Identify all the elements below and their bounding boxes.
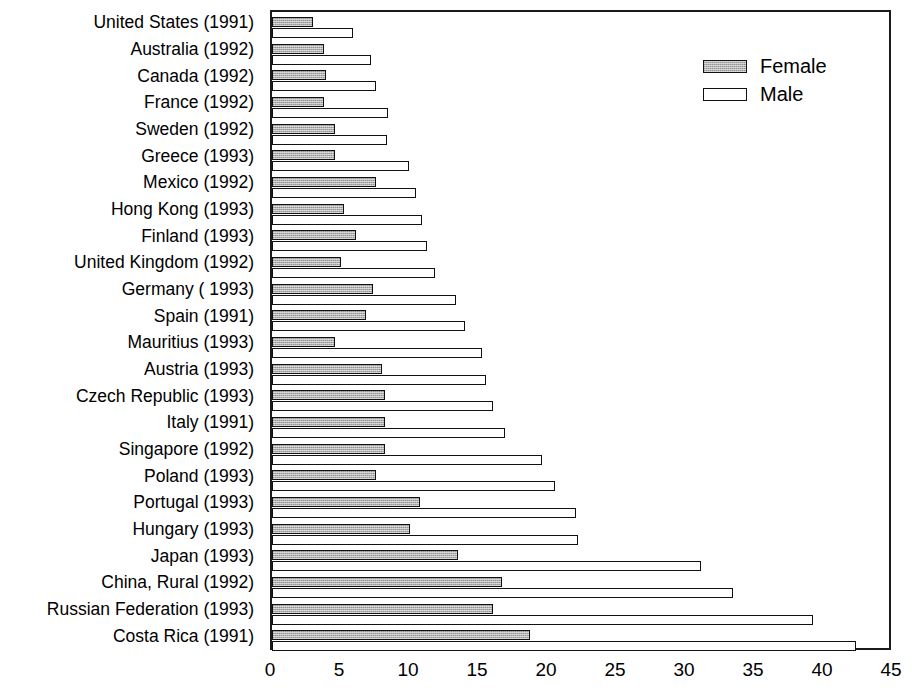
bar-group [272, 492, 889, 519]
bar-male [272, 241, 427, 251]
bar-female [272, 284, 373, 294]
bar-group [272, 545, 889, 572]
x-axis-tick-label: 15 [466, 660, 487, 679]
x-axis-tick-label: 35 [742, 660, 763, 679]
bar-female [272, 17, 313, 27]
category-label: Mexico (1992) [0, 174, 254, 192]
bar-female [272, 177, 376, 187]
bar-female [272, 70, 326, 80]
category-label: Finland (1993) [0, 228, 254, 246]
bar-female [272, 524, 410, 534]
bar-male [272, 268, 435, 278]
x-axis-tick-label: 25 [604, 660, 625, 679]
x-axis-tick-label: 5 [334, 660, 345, 679]
bar-male [272, 215, 422, 225]
bar-female [272, 417, 385, 427]
x-axis: 051015202530354045 [270, 652, 891, 692]
category-label: Czech Republic (1993) [0, 388, 254, 406]
bar-group [272, 385, 889, 412]
chart-legend: FemaleMale [703, 54, 878, 110]
bar-female [272, 470, 376, 480]
bar-group [272, 172, 889, 199]
category-label: France (1992) [0, 94, 254, 112]
bar-male [272, 348, 482, 358]
bar-group [272, 519, 889, 546]
bar-group [272, 119, 889, 146]
bar-male [272, 55, 371, 65]
bar-group [272, 279, 889, 306]
category-label: Hungary (1993) [0, 521, 254, 539]
legend-swatch-icon [703, 88, 747, 101]
bar-female [272, 97, 324, 107]
category-label: Italy (1991) [0, 414, 254, 432]
bar-male [272, 188, 416, 198]
category-label: Greece (1993) [0, 148, 254, 166]
bar-group [272, 305, 889, 332]
bar-female [272, 310, 366, 320]
bar-chart-figure: United States (1991)Australia (1992)Cana… [0, 0, 912, 697]
bar-male [272, 588, 733, 598]
bar-male [272, 428, 505, 438]
bar-male [272, 295, 456, 305]
bar-group [272, 412, 889, 439]
bar-male [272, 321, 465, 331]
bar-group [272, 12, 889, 39]
bar-female [272, 390, 385, 400]
bar-female [272, 550, 458, 560]
bar-group [272, 199, 889, 226]
bar-group [272, 465, 889, 492]
category-label: Hong Kong (1993) [0, 201, 254, 219]
x-axis-tick-label: 45 [880, 660, 901, 679]
bar-male [272, 81, 376, 91]
bar-male [272, 161, 409, 171]
category-label: Austria (1993) [0, 361, 254, 379]
category-label: Singapore (1992) [0, 441, 254, 459]
bar-male [272, 375, 486, 385]
bar-female [272, 257, 341, 267]
legend-item-female: Female [703, 54, 827, 78]
category-label: United States (1991) [0, 14, 254, 32]
category-label: Spain (1991) [0, 308, 254, 326]
x-axis-tick-label: 10 [397, 660, 418, 679]
bar-male [272, 508, 576, 518]
category-label: Sweden (1992) [0, 121, 254, 139]
bar-female [272, 150, 335, 160]
bar-female [272, 444, 385, 454]
x-axis-tick-label: 40 [811, 660, 832, 679]
bar-group [272, 359, 889, 386]
category-label: Australia (1992) [0, 41, 254, 59]
bar-male [272, 401, 493, 411]
bar-female [272, 577, 502, 587]
bar-male [272, 615, 813, 625]
bar-female [272, 497, 420, 507]
bar-female [272, 630, 530, 640]
category-label: Portugal (1993) [0, 494, 254, 512]
bar-male [272, 28, 353, 38]
x-axis-tick-label: 30 [673, 660, 694, 679]
category-label: Japan (1993) [0, 548, 254, 566]
bar-group [272, 225, 889, 252]
bar-male [272, 108, 388, 118]
bar-female [272, 230, 356, 240]
category-label: Poland (1993) [0, 468, 254, 486]
bar-male [272, 641, 856, 651]
bar-group [272, 252, 889, 279]
bar-female [272, 124, 335, 134]
legend-label: Male [760, 84, 803, 104]
category-label: Russian Federation (1993) [0, 601, 254, 619]
category-label: Germany ( 1993) [0, 281, 254, 299]
bar-male [272, 455, 542, 465]
bar-group [272, 625, 889, 652]
bar-group [272, 332, 889, 359]
bar-female [272, 364, 382, 374]
bar-male [272, 561, 701, 571]
x-axis-tick-label: 20 [535, 660, 556, 679]
bar-male [272, 481, 555, 491]
bar-group [272, 439, 889, 466]
category-label: Costa Rica (1991) [0, 628, 254, 646]
bar-male [272, 135, 387, 145]
category-label: Mauritius (1993) [0, 334, 254, 352]
bar-female [272, 337, 335, 347]
bar-female [272, 204, 344, 214]
legend-item-male: Male [703, 82, 803, 106]
